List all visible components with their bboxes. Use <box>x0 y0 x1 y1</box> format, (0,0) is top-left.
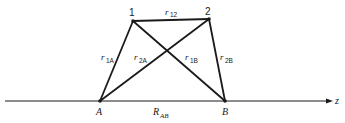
svg-text:r: r <box>101 52 105 62</box>
svg-text:2A: 2A <box>139 57 148 64</box>
label-r1B: r 1B <box>185 52 198 64</box>
diagram-canvas: z 1 2 A B r 12 r 1A r 2A r 1B r 2B R AB <box>0 0 345 123</box>
svg-text:12: 12 <box>170 11 178 18</box>
vertex-1-label: 1 <box>129 7 135 18</box>
vertex-A <box>98 99 102 103</box>
z-axis-label: z <box>334 95 339 106</box>
svg-text:r: r <box>134 52 138 62</box>
edge-r12 <box>133 19 209 21</box>
svg-text:r: r <box>165 7 169 17</box>
vertex-A-label: A <box>95 106 103 117</box>
svg-text:1A: 1A <box>106 57 115 64</box>
vertex-B <box>223 99 227 103</box>
label-r2A: r 2A <box>134 52 148 64</box>
label-r2B: r 2B <box>220 52 233 64</box>
vertex-1 <box>131 19 135 23</box>
label-RAB: R AB <box>152 106 169 120</box>
label-r12: r 12 <box>165 7 178 18</box>
svg-text:2B: 2B <box>225 57 233 64</box>
vertex-2 <box>207 17 211 21</box>
svg-text:1B: 1B <box>190 57 198 64</box>
z-axis-arrowhead <box>326 99 333 104</box>
svg-text:r: r <box>220 52 224 62</box>
svg-text:AB: AB <box>159 112 169 120</box>
label-r1A: r 1A <box>101 52 115 64</box>
vertex-2-label: 2 <box>205 6 211 17</box>
svg-text:R: R <box>152 106 159 117</box>
vertex-B-label: B <box>222 106 228 117</box>
svg-text:r: r <box>185 52 189 62</box>
